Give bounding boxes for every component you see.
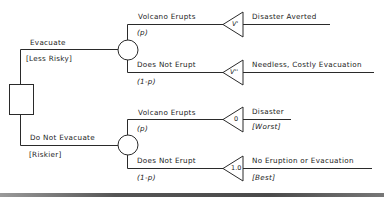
decision-annotation-do-not-evacuate: [Riskier] (29, 151, 62, 158)
outcome-annotation-best: [Best] (252, 174, 275, 181)
outcome-needless-evacuation: Needless, Costly Evacuation (252, 61, 362, 68)
terminal-triangle-zero (223, 107, 243, 132)
decision-tree-diagram (0, 0, 384, 197)
decision-node-square (10, 85, 34, 115)
probability-p-lower: (p) (137, 125, 148, 132)
event-label-erupts-upper: Volcano Erupts (138, 13, 196, 20)
probability-1-p-upper: (1-p) (137, 78, 156, 85)
decision-label-do-not-evacuate: Do Not Evacuate (30, 134, 95, 141)
event-label-erupts-lower: Volcano Erupts (138, 109, 196, 116)
probability-p-upper: (p) (137, 29, 148, 36)
value-marker-v-prime: V' (232, 21, 238, 28)
event-label-no-erupt-lower: Does Not Erupt (137, 157, 196, 164)
decision-label-evacuate: Evacuate (30, 39, 66, 46)
chance-node-do-not-evacuate (118, 135, 138, 155)
bottom-rule (0, 193, 384, 197)
probability-1-p-lower: (1-p) (137, 174, 156, 181)
outcome-no-eruption: No Eruption or Evacuation (252, 157, 354, 164)
value-marker-v-double-prime: V'' (230, 69, 238, 76)
outcome-disaster: Disaster (252, 108, 284, 115)
event-label-no-erupt-upper: Does Not Erupt (137, 61, 196, 68)
chance-node-evacuate (118, 40, 138, 60)
outcome-disaster-averted: Disaster Averted (252, 13, 317, 20)
value-marker-zero: 0 (234, 116, 238, 123)
value-marker-one: 1.0 (231, 165, 241, 172)
outcome-annotation-worst: [Worst] (252, 123, 281, 130)
decision-annotation-evacuate: [Less Risky] (26, 55, 72, 62)
